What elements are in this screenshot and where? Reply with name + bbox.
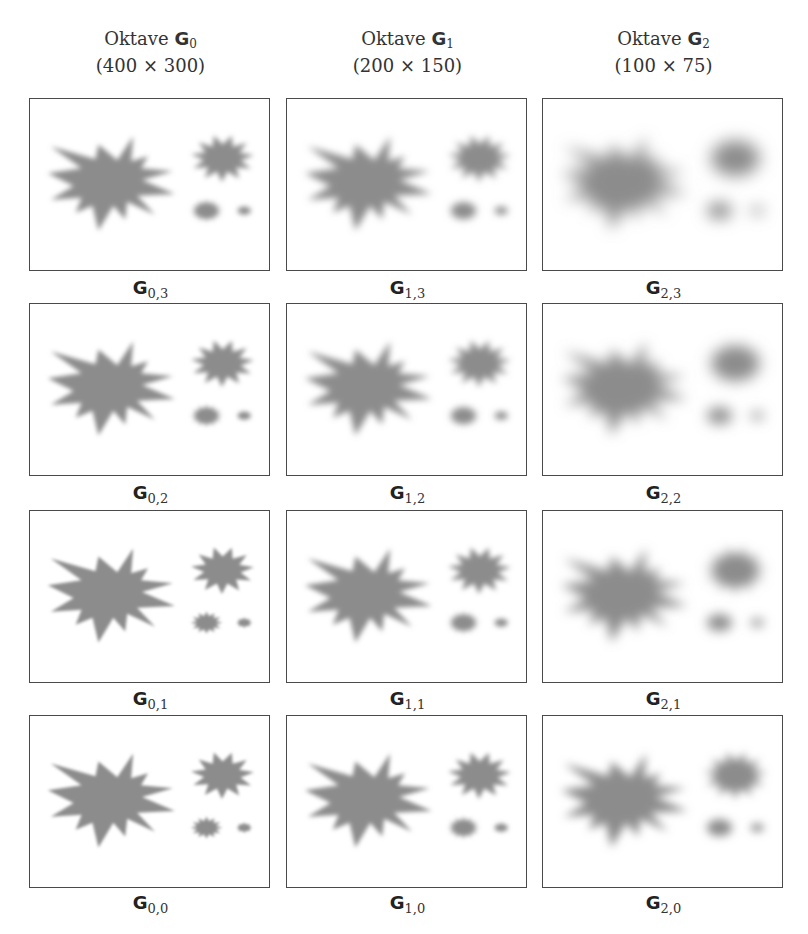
caption-symbol: G bbox=[390, 277, 405, 298]
blurred-stars-image bbox=[543, 511, 782, 682]
caption-symbol: G bbox=[133, 892, 148, 913]
blurred-stars-image bbox=[287, 99, 526, 270]
small-star-shape bbox=[191, 200, 223, 222]
medium-star-shape bbox=[191, 547, 254, 594]
panel-caption: G2,2 bbox=[542, 483, 785, 509]
scale-space-image-g-1-3 bbox=[286, 98, 527, 271]
large-star-shape bbox=[48, 754, 175, 848]
column-header-octave-1: Oktave G1 (200 × 150) bbox=[286, 28, 529, 77]
blurred-stars-image bbox=[30, 99, 269, 270]
blurred-stars-image bbox=[287, 716, 526, 887]
tiny-star-shape bbox=[493, 206, 509, 216]
large-star-shape bbox=[561, 342, 688, 436]
medium-star-shape bbox=[448, 752, 511, 799]
header-index: 1 bbox=[446, 37, 454, 51]
tiny-star-shape bbox=[749, 823, 765, 833]
header-symbol: G bbox=[687, 28, 702, 49]
panel-caption: G2,1 bbox=[542, 689, 785, 715]
panel-caption: G1,1 bbox=[286, 689, 529, 715]
large-star-shape bbox=[305, 342, 432, 436]
caption-subscript: 1,2 bbox=[405, 491, 426, 506]
tiny-star-shape bbox=[493, 411, 509, 421]
panel-caption: G1,2 bbox=[286, 483, 529, 509]
blurred-stars-image bbox=[287, 304, 526, 475]
header-index: 0 bbox=[189, 37, 197, 51]
caption-symbol: G bbox=[646, 688, 661, 709]
scale-space-image-g-2-1 bbox=[542, 510, 783, 683]
caption-symbol: G bbox=[390, 892, 405, 913]
caption-symbol: G bbox=[390, 482, 405, 503]
scale-space-image-g-0-1 bbox=[29, 510, 270, 683]
large-star-shape bbox=[561, 137, 688, 231]
caption-symbol: G bbox=[133, 688, 148, 709]
header-index: 2 bbox=[702, 37, 710, 51]
header-size: (400 × 300) bbox=[29, 55, 272, 77]
small-star-shape bbox=[704, 405, 736, 427]
column-header-octave-2: Oktave G2 (100 × 75) bbox=[542, 28, 785, 77]
small-star-shape bbox=[448, 405, 480, 427]
scale-space-image-g-2-3 bbox=[542, 98, 783, 271]
header-symbol: G bbox=[431, 28, 446, 49]
small-star-shape bbox=[704, 612, 736, 634]
tiny-star-shape bbox=[493, 618, 509, 628]
scale-space-image-g-0-3 bbox=[29, 98, 270, 271]
tiny-star-shape bbox=[236, 618, 252, 628]
panel-caption: G0,3 bbox=[29, 278, 272, 304]
small-star-shape bbox=[704, 817, 736, 839]
tiny-star-shape bbox=[236, 823, 252, 833]
panel-caption: G0,1 bbox=[29, 689, 272, 715]
caption-subscript: 2,2 bbox=[661, 491, 682, 506]
header-label: Oktave bbox=[361, 28, 431, 49]
blurred-stars-image bbox=[287, 511, 526, 682]
header-symbol: G bbox=[174, 28, 189, 49]
large-star-shape bbox=[561, 549, 688, 643]
scale-space-image-g-1-1 bbox=[286, 510, 527, 683]
large-star-shape bbox=[48, 137, 175, 231]
medium-star-shape bbox=[448, 135, 511, 182]
caption-subscript: 1,0 bbox=[405, 901, 426, 916]
medium-star-shape bbox=[191, 752, 254, 799]
caption-subscript: 1,3 bbox=[405, 286, 426, 301]
blurred-stars-image bbox=[30, 716, 269, 887]
panel-caption: G1,0 bbox=[286, 893, 529, 919]
scale-space-image-g-2-0 bbox=[542, 715, 783, 888]
caption-symbol: G bbox=[133, 482, 148, 503]
caption-subscript: 1,1 bbox=[405, 697, 426, 712]
scale-space-image-g-0-2 bbox=[29, 303, 270, 476]
caption-symbol: G bbox=[646, 892, 661, 913]
small-star-shape bbox=[448, 817, 480, 839]
panel-caption: G2,3 bbox=[542, 278, 785, 304]
caption-subscript: 2,3 bbox=[661, 286, 682, 301]
blurred-stars-image bbox=[543, 99, 782, 270]
large-star-shape bbox=[48, 342, 175, 436]
medium-star-shape bbox=[191, 135, 254, 182]
blurred-stars-image bbox=[543, 716, 782, 887]
medium-star-shape bbox=[448, 547, 511, 594]
tiny-star-shape bbox=[749, 206, 765, 216]
panel-caption: G2,0 bbox=[542, 893, 785, 919]
tiny-star-shape bbox=[749, 411, 765, 421]
tiny-star-shape bbox=[493, 823, 509, 833]
large-star-shape bbox=[305, 549, 432, 643]
caption-subscript: 2,0 bbox=[661, 901, 682, 916]
medium-star-shape bbox=[191, 340, 254, 387]
panel-caption: G1,3 bbox=[286, 278, 529, 304]
header-size: (200 × 150) bbox=[286, 55, 529, 77]
scale-space-image-g-2-2 bbox=[542, 303, 783, 476]
scale-space-image-g-0-0 bbox=[29, 715, 270, 888]
caption-subscript: 0,1 bbox=[148, 697, 169, 712]
blurred-stars-image bbox=[30, 511, 269, 682]
small-star-shape bbox=[191, 405, 223, 427]
caption-symbol: G bbox=[390, 688, 405, 709]
header-size: (100 × 75) bbox=[542, 55, 785, 77]
scale-space-image-g-1-2 bbox=[286, 303, 527, 476]
caption-symbol: G bbox=[646, 277, 661, 298]
medium-star-shape bbox=[704, 752, 767, 799]
small-star-shape bbox=[704, 200, 736, 222]
large-star-shape bbox=[305, 754, 432, 848]
medium-star-shape bbox=[448, 340, 511, 387]
tiny-star-shape bbox=[749, 618, 765, 628]
scale-space-image-g-1-0 bbox=[286, 715, 527, 888]
blurred-stars-image bbox=[30, 304, 269, 475]
small-star-shape bbox=[191, 817, 223, 839]
